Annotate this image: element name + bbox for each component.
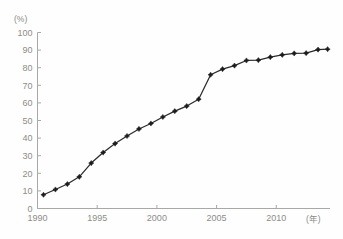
line-chart: 0102030405060708090100 19901995200020052… <box>0 0 343 239</box>
x-tick-label: 2005 <box>207 213 227 223</box>
y-axis-unit-label: (%) <box>14 14 27 24</box>
data-point-marker <box>41 192 46 197</box>
data-point-marker <box>53 187 58 192</box>
data-point-marker <box>315 47 320 52</box>
data-point-marker <box>280 52 285 57</box>
x-tick-label: 1990 <box>27 213 47 223</box>
data-series-diffusion-rate <box>41 47 330 198</box>
y-tick-label: 30 <box>22 151 32 161</box>
y-tick-label: 60 <box>22 98 32 108</box>
data-point-marker <box>196 97 201 102</box>
y-axis: 0102030405060708090100 <box>17 28 41 214</box>
x-tick-label: 2000 <box>147 213 167 223</box>
data-point-marker <box>256 58 261 63</box>
chart-container: 0102030405060708090100 19901995200020052… <box>0 0 343 239</box>
x-tick-label: 2010 <box>266 213 286 223</box>
data-point-marker <box>172 109 177 114</box>
data-point-marker <box>220 67 225 72</box>
x-axis-unit-label: (年) <box>306 214 321 224</box>
y-tick-label: 70 <box>22 81 32 91</box>
y-tick-label: 100 <box>17 28 32 38</box>
data-point-marker <box>160 114 165 119</box>
data-point-marker <box>232 63 237 68</box>
x-axis: 19901995200020052010 <box>27 205 330 223</box>
y-tick-label: 20 <box>22 169 32 179</box>
data-point-marker <box>148 121 153 126</box>
series-line <box>43 49 327 195</box>
data-point-marker <box>208 72 213 77</box>
y-tick-label: 40 <box>22 133 32 143</box>
x-tick-label: 1995 <box>87 213 107 223</box>
data-point-marker <box>325 47 330 52</box>
data-point-marker <box>184 103 189 108</box>
data-point-marker <box>304 50 309 55</box>
y-tick-label: 10 <box>22 186 32 196</box>
data-point-marker <box>292 51 297 56</box>
data-point-marker <box>244 58 249 63</box>
data-point-marker <box>136 126 141 131</box>
y-tick-label: 80 <box>22 63 32 73</box>
y-tick-label: 90 <box>22 45 32 55</box>
y-tick-label: 50 <box>22 116 32 126</box>
data-point-marker <box>268 55 273 60</box>
